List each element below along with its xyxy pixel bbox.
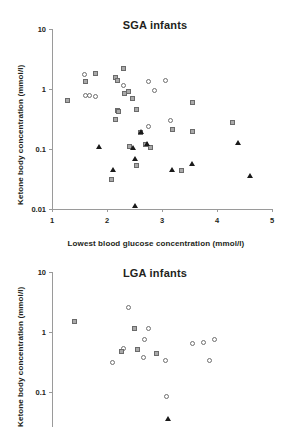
data-point-open-circle (146, 326, 151, 331)
data-point-gray-square (116, 109, 121, 114)
data-point-open-circle (152, 88, 157, 93)
data-point-open-circle (126, 305, 131, 310)
data-point-open-circle (164, 394, 169, 399)
data-point-gray-square (190, 100, 195, 105)
data-point-open-circle (168, 118, 173, 123)
data-point-black-triangle (132, 156, 138, 161)
data-point-black-triangle (169, 167, 175, 172)
data-point-black-triangle (132, 203, 138, 208)
data-point-gray-square (115, 78, 120, 83)
data-point-black-triangle (110, 167, 116, 172)
data-point-black-triangle (247, 173, 253, 178)
data-point-gray-square (179, 168, 184, 173)
data-point-open-circle (212, 337, 217, 342)
data-point-open-circle (163, 78, 168, 83)
x-axis-label-sga: Lowest blood glucose concentration (mmol… (31, 239, 281, 248)
data-point-gray-square (130, 96, 135, 101)
data-point-black-triangle (235, 140, 241, 145)
data-point-gray-square (93, 71, 98, 76)
data-point-open-circle (82, 72, 87, 77)
data-point-black-triangle (130, 145, 136, 150)
data-point-gray-square (230, 120, 235, 125)
chart-panel-sga: SGA infants Ketone body concentration (m… (0, 0, 282, 255)
data-point-gray-square (126, 89, 131, 94)
data-point-gray-square (170, 127, 175, 132)
plot-area-lga (0, 255, 282, 427)
data-point-gray-square (190, 129, 195, 134)
data-point-gray-square (65, 98, 70, 103)
data-point-open-circle (121, 83, 126, 88)
data-point-open-circle (146, 124, 151, 129)
data-point-gray-square (119, 349, 124, 354)
data-point-open-circle (190, 341, 195, 346)
figure-root: SGA infants Ketone body concentration (m… (0, 0, 282, 427)
data-point-open-circle (87, 93, 92, 98)
data-point-open-circle (146, 79, 151, 84)
data-point-black-triangle (96, 144, 102, 149)
data-point-open-circle (163, 358, 168, 363)
data-point-open-circle (141, 355, 146, 360)
data-point-gray-square (135, 347, 140, 352)
data-point-open-circle (93, 94, 98, 99)
data-point-black-triangle (165, 416, 171, 421)
data-point-open-circle (201, 340, 206, 345)
plot-area-sga (0, 0, 282, 255)
data-point-gray-square (154, 351, 159, 356)
data-point-gray-square (134, 163, 139, 168)
data-point-gray-square (109, 177, 114, 182)
chart-panel-lga: LGA infants Ketone body concentration (m… (0, 255, 282, 427)
data-point-open-circle (142, 337, 147, 342)
data-point-gray-square (132, 326, 137, 331)
data-point-open-circle (110, 360, 115, 365)
data-point-gray-square (83, 79, 88, 84)
data-point-black-triangle (138, 129, 144, 134)
data-point-gray-square (134, 107, 139, 112)
data-point-gray-square (72, 319, 77, 324)
data-point-black-triangle (144, 141, 150, 146)
data-point-gray-square (121, 66, 126, 71)
data-point-gray-square (113, 117, 118, 122)
data-point-open-circle (207, 358, 212, 363)
data-point-black-triangle (189, 161, 195, 166)
